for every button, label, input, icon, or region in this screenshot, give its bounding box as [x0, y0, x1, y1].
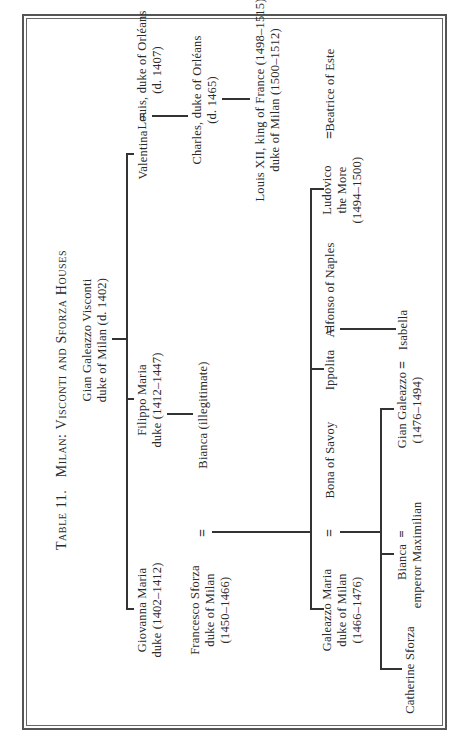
person-name: Catherine Sforza: [403, 626, 418, 714]
marriage-symbol: =: [195, 529, 211, 537]
connector-line: [380, 553, 394, 555]
person-dates: (1476–1494): [410, 372, 425, 449]
person-title: duke of Milan (d. 1402): [95, 278, 110, 402]
connector-line: [380, 408, 394, 410]
table-title-main: Milan: Visconti and Sforza Houses: [54, 250, 69, 477]
person-louis-orleans: Louis, duke of Orléans (d. 1407): [135, 11, 165, 130]
connector-line: [126, 153, 134, 155]
person-title: (d. 1465): [205, 35, 220, 164]
person-name: Alfonso of Naples: [323, 242, 338, 337]
connector-line: [167, 413, 193, 415]
person-name: Francesco Sforza: [188, 565, 203, 655]
connector-line: [126, 608, 134, 610]
marriage-symbol: =: [322, 529, 338, 537]
person-bianca-illegitimate: Bianca (illegitimate): [196, 361, 211, 468]
person-louis-xii: Louis XII, king of France (1498–1515) du…: [253, 0, 283, 202]
person-alfonso-of-naples: Alfonso of Naples: [323, 242, 338, 337]
person-title: duke of Milan (1500–1512): [268, 0, 283, 202]
person-name: Bianca (illegitimate): [196, 361, 211, 468]
person-ippolita: Ippolita: [323, 350, 338, 390]
person-dates: (1494–1500): [350, 157, 365, 224]
person-name: Bianca: [395, 544, 409, 580]
person-title: duke of Milan: [203, 565, 218, 655]
person-valentina: Valentina: [136, 130, 151, 179]
person-charles-orleans: Charles, duke of Orléans (d. 1465): [190, 35, 220, 164]
person-ludovico: Ludovico the More (1494–1500): [320, 157, 365, 224]
table-title-prefix: Table 11.: [54, 490, 69, 551]
person-title: duke of Milan: [335, 569, 350, 651]
person-title: (d. 1407): [150, 11, 165, 130]
connector-line: [152, 115, 188, 117]
person-name: Ludovico: [320, 157, 335, 224]
person-name: Galeazzo Maria: [320, 569, 335, 651]
genealogy-table: Table 11. Milan: Visconti and Sforza Hou…: [0, 0, 467, 746]
connector-line: [340, 531, 380, 533]
connector-line: [222, 98, 250, 100]
person-galeazzo-maria: Galeazzo Maria duke of Milan (1466–1476): [320, 569, 365, 651]
person-name: Bona of Savoy: [323, 422, 338, 499]
person-name: Filippo Maria: [135, 352, 150, 447]
person-name: Charles, duke of Orléans: [190, 35, 205, 164]
sibling-line: [380, 410, 382, 670]
person-francesco-sforza: Francesco Sforza duke of Milan (1450–146…: [188, 565, 233, 655]
connector-line: [380, 668, 402, 670]
connector-line: [212, 531, 310, 533]
person-giovanna-maria: Giovanna Maria duke (1402–1412): [135, 562, 165, 657]
table-title: Table 11. Milan: Visconti and Sforza Hou…: [54, 250, 70, 550]
person-dates: (1450–1466): [218, 565, 233, 655]
connector-line: [340, 328, 396, 330]
person-name: Giovanna Maria: [135, 562, 150, 657]
person-catherine-sforza: Catherine Sforza: [403, 626, 418, 714]
person-name: Gian Galeazzo: [395, 372, 410, 449]
person-filippo-maria: Filippo Maria duke (1412–1447): [135, 352, 165, 447]
person-gian-galeazzo-visconti: Gian Galeazzo Visconti duke of Milan (d.…: [80, 278, 110, 402]
marriage-symbol: =: [395, 530, 409, 537]
connector-line: [112, 338, 126, 340]
person-dates: (1466–1476): [350, 569, 365, 651]
sibling-line: [126, 154, 128, 610]
person-name: Gian Galeazzo Visconti: [80, 278, 95, 402]
person-name: Ippolita: [323, 350, 338, 390]
person-name: Valentina: [136, 130, 151, 179]
person-name: Louis XII, king of France (1498–1515): [253, 0, 268, 202]
marriage-symbol: =: [395, 361, 411, 369]
person-bona-of-savoy: Bona of Savoy: [323, 422, 338, 499]
connector-line: [126, 398, 134, 400]
sibling-line: [310, 190, 312, 610]
person-isabella: Isabella: [396, 310, 411, 350]
person-name: Beatrice of Este: [323, 48, 338, 131]
person-title: duke (1402–1412): [150, 562, 165, 657]
spouse-name: emperor Maximilian: [410, 502, 425, 609]
person-name: Louis, duke of Orléans: [135, 11, 150, 130]
person-gian-galeazzo: Gian Galeazzo (1476–1494): [395, 372, 425, 449]
person-title: the More: [335, 157, 350, 224]
person-title: duke (1412–1447): [150, 352, 165, 447]
person-beatrice-of-este: Beatrice of Este: [323, 48, 338, 131]
person-bianca: Bianca = emperor Maximilian: [395, 502, 425, 609]
marriage-symbol: =: [322, 131, 338, 139]
person-name: Isabella: [396, 310, 411, 350]
